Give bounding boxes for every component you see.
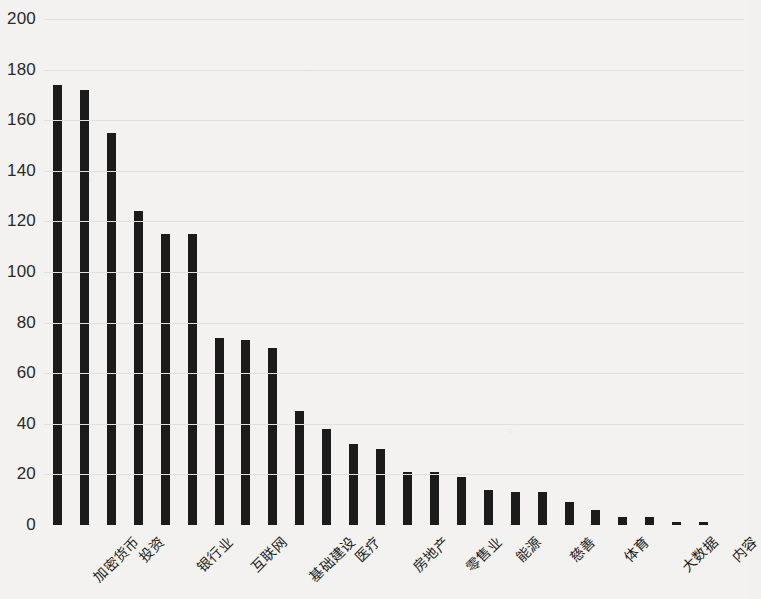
- bar: [107, 133, 116, 525]
- bar: [484, 490, 493, 525]
- gridline: [44, 19, 744, 20]
- bar: [322, 429, 331, 525]
- x-axis-tick-label: 银行业: [192, 531, 237, 576]
- bar: [80, 90, 89, 525]
- bar: [672, 522, 681, 525]
- gridline: [44, 221, 744, 222]
- bar: [295, 411, 304, 525]
- x-axis-tick-label: 大数据: [677, 531, 722, 576]
- y-axis-tick-label: 20: [17, 464, 36, 484]
- bar: [349, 444, 358, 525]
- x-axis-tick-label: 内容: [726, 531, 761, 566]
- gridline: [44, 373, 744, 374]
- gridline: [44, 70, 744, 71]
- y-axis-tick-label: 180: [7, 60, 36, 80]
- bar: [403, 472, 412, 525]
- gridline: [44, 171, 744, 172]
- x-axis-tick-label: 体育: [618, 531, 653, 566]
- bar: [376, 449, 385, 525]
- y-axis-tick-label: 60: [17, 363, 36, 383]
- gridline: [44, 474, 744, 475]
- x-axis-tick-label: 互联网: [246, 531, 291, 576]
- bar: [565, 502, 574, 525]
- bar: [618, 517, 627, 525]
- x-axis-tick-label: 零售业: [461, 531, 506, 576]
- y-axis-tick-label: 40: [17, 414, 36, 434]
- x-axis-tick-label: 加密货币: [88, 531, 143, 586]
- y-axis: 020406080100120140160180200: [0, 0, 44, 599]
- bar: [161, 234, 170, 525]
- bar: [53, 85, 62, 525]
- y-axis-tick-label: 140: [7, 161, 36, 181]
- x-axis: 加密货币投资银行业互联网基础建设医疗房地产零售业能源慈善体育大数据内容: [44, 527, 744, 599]
- bar: [511, 492, 520, 525]
- y-axis-tick-label: 80: [17, 313, 36, 333]
- bar: [241, 340, 250, 525]
- x-axis-tick-label: 房地产: [407, 531, 452, 576]
- bar: [538, 492, 547, 525]
- gridline: [44, 424, 744, 425]
- y-axis-tick-label: 200: [7, 9, 36, 29]
- bar: [188, 234, 197, 525]
- plot-area: [44, 19, 744, 525]
- gridline: [44, 272, 744, 273]
- bar: [699, 522, 708, 525]
- x-axis-tick-label: 能源: [511, 531, 546, 566]
- x-axis-tick-label: 慈善: [565, 531, 600, 566]
- y-axis-tick-label: 120: [7, 211, 36, 231]
- bar: [215, 338, 224, 525]
- x-axis-tick-label: 基础建设: [304, 531, 359, 586]
- gridline: [44, 323, 744, 324]
- bar: [645, 517, 654, 525]
- y-axis-tick-label: 100: [7, 262, 36, 282]
- x-axis-tick-label: 医疗: [349, 531, 384, 566]
- gridline: [44, 120, 744, 121]
- y-axis-tick-label: 160: [7, 110, 36, 130]
- bar: [268, 348, 277, 525]
- bar: [430, 472, 439, 525]
- bar: [134, 211, 143, 525]
- bar: [591, 510, 600, 525]
- bar: [457, 477, 466, 525]
- y-axis-tick-label: 0: [26, 515, 36, 535]
- x-axis-tick-label: 投资: [134, 531, 169, 566]
